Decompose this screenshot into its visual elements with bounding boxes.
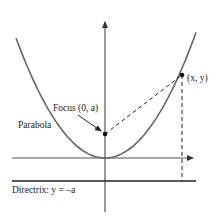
focus-label: Focus (0, a): [53, 103, 98, 114]
parabola-curve: [16, 33, 196, 159]
parabola-diagram: Focus (0, a) (x, y) Parabola Directrix: …: [0, 0, 221, 219]
parabola-label: Parabola: [18, 120, 52, 130]
point-label: (x, y): [187, 73, 208, 84]
focus-to-point-dashed: [105, 75, 182, 134]
sample-point: [180, 73, 185, 78]
directrix-label: Directrix: y = –a: [12, 185, 76, 195]
focus-arrow: [78, 115, 101, 131]
focus-point: [103, 132, 108, 137]
